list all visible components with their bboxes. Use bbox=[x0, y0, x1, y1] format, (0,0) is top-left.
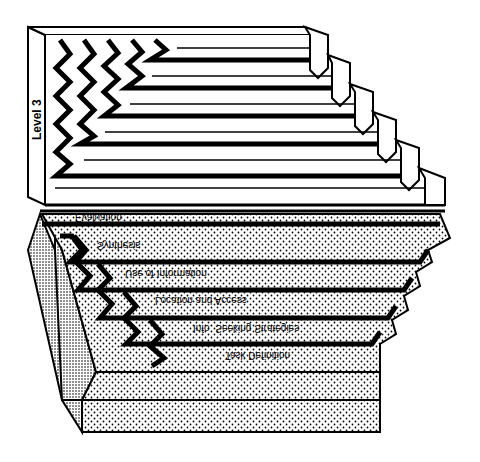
skill-label-task-definition: Task Definition bbox=[225, 350, 290, 361]
bottom-block: Evaluation Synthesis Use of Information … bbox=[28, 212, 450, 432]
top-block-top-face bbox=[28, 27, 322, 35]
skill-label-info-seeking-strategies: Info. Seeking Strategies bbox=[193, 323, 299, 334]
bottom-slab-upper bbox=[82, 372, 380, 400]
skill-label-evaluation: Evaluation bbox=[75, 212, 122, 223]
top-block: Level 3 bbox=[28, 27, 445, 211]
level-label: Level 3 bbox=[30, 99, 44, 140]
skill-label-use-of-information: Use of Information bbox=[125, 268, 207, 279]
bottom-slab-lower bbox=[82, 400, 380, 432]
skill-label-location-and-access: Location and Access bbox=[155, 295, 247, 306]
big6-stacked-arrow-diagram: Level 3 Evaluation Synthesis Use of Info… bbox=[0, 0, 480, 462]
skill-label-synthesis: Synthesis bbox=[97, 240, 140, 251]
